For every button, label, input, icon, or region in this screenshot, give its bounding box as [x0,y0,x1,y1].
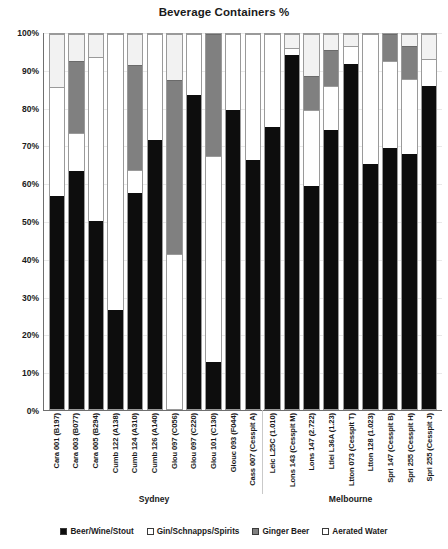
bar-segment [422,34,436,59]
chart-legend: Beer/Wine/StoutGin/Schnapps/SpiritsGinge… [0,527,448,536]
bar-column[interactable] [186,33,202,410]
x-tick-cell: Cass 007 (Cesspit A) [244,412,260,494]
bar-column[interactable] [303,33,319,410]
bar-stack [68,33,84,410]
bar-segment [285,48,299,55]
x-tick-cell: Glouc 093 (F044) [225,412,241,494]
x-tick-cell: Ltton 073 (Cesspit T) [342,412,358,494]
bar-column[interactable] [323,33,339,410]
bar-column[interactable] [205,33,221,410]
y-tick-label: 0% [27,406,39,416]
x-tick-label: Ltlei L36A (1.23) [327,413,336,469]
legend-item[interactable]: Beer/Wine/Stout [60,527,133,536]
bar-stack [343,33,359,410]
bar-column[interactable] [284,33,300,410]
x-tick-label: Cumb 124 (A310) [130,413,139,473]
bar-column[interactable] [401,33,417,410]
bar-column[interactable] [127,33,143,410]
bar-stack [401,33,417,410]
bar-segment [304,76,318,110]
bar-column[interactable] [245,33,261,410]
bar-segment [167,254,181,409]
legend-label: Beer/Wine/Stout [70,527,133,536]
bar-column[interactable] [147,33,163,410]
x-tick-label: Cara 005 (B294) [91,413,100,469]
x-tick-label: Glou 101 (C130) [209,413,218,469]
bar-series-layer [44,33,442,410]
x-tick-cell: Glou 101 (C130) [205,412,221,494]
x-tick-cell: Cumb 122 (A138) [107,412,123,494]
x-tick-cell: Leic L25C (1.010) [264,412,280,494]
bar-segment [69,34,83,61]
x-axis-tick-labels: Cara 001 (B197)Cara 003 (B077)Cara 005 (… [43,412,442,494]
bar-stack [323,33,339,410]
bar-column[interactable] [68,33,84,410]
bar-stack [245,33,261,410]
bar-segment [246,160,260,409]
plot-area [43,33,442,411]
bar-stack [382,33,398,410]
bar-column[interactable] [49,33,65,410]
bar-segment [206,362,220,409]
y-tick-label: 40% [22,255,39,265]
x-tick-cell: Lons 143 (Cesspit M) [283,412,299,494]
chart-title: Beverage Containers % [0,6,448,18]
bar-segment [108,34,122,310]
x-tick-cell: Cumb 124 (A310) [126,412,142,494]
bar-column[interactable] [264,33,280,410]
bar-segment [128,170,142,193]
x-tick-cell: Cara 003 (B077) [67,412,83,494]
x-tick-cell: Cara 001 (B197) [48,412,64,494]
x-axis-group-labels: SydneyMelbourne [43,494,442,510]
x-tick-label: Cara 001 (B197) [51,413,60,469]
x-tick-label: Leic L25C (1.010) [268,413,277,473]
bar-column[interactable] [343,33,359,410]
bar-segment [422,59,436,86]
swatch-beer-icon [60,528,67,535]
bar-stack [49,33,65,410]
bar-stack [264,33,280,410]
bar-segment [89,57,103,220]
bar-segment [324,130,338,409]
bar-column[interactable] [88,33,104,410]
bar-segment [363,34,377,164]
bar-column[interactable] [421,33,437,410]
legend-item[interactable]: Gin/Schnapps/Spirits [147,527,240,536]
x-tick-cell: Spri 147 (Cesspit B) [382,412,398,494]
bar-stack [303,33,319,410]
y-tick-label: 30% [22,293,39,303]
bar-column[interactable] [362,33,378,410]
x-tick-label: Spri 255 (Cesspit J) [425,413,434,481]
bar-column[interactable] [166,33,182,410]
bar-segment [148,140,162,409]
legend-label: Aerated Water [332,527,387,536]
bar-segment [69,133,83,171]
bar-segment [402,34,416,46]
legend-item[interactable]: Ginger Beer [252,527,309,536]
bar-stack [362,33,378,410]
x-tick-cell: Ltlei L36A (1.23) [323,412,339,494]
x-tick-label: Glouc 093 (F044) [228,413,237,472]
legend-item[interactable]: Aerated Water [322,527,387,536]
bar-column[interactable] [107,33,123,410]
bar-segment [344,34,358,46]
bar-column[interactable] [225,33,241,410]
bar-column[interactable] [382,33,398,410]
y-tick-label: 100% [17,28,39,38]
bar-stack [166,33,182,410]
x-tick-label: Lons 147 (2.722) [307,413,316,471]
swatch-ginger-icon [252,528,259,535]
bar-segment [265,34,279,127]
bar-segment [402,46,416,79]
bar-stack [107,33,123,410]
bar-segment [50,87,64,196]
group-separator [262,410,263,494]
bar-stack [205,33,221,410]
x-tick-label: Lons 143 (Cesspit M) [287,413,296,487]
y-tick-label: 20% [22,330,39,340]
bar-stack [421,33,437,410]
x-tick-label: Glou 097 (C220) [189,413,198,469]
bar-segment [226,110,240,409]
bar-segment [304,34,318,76]
y-tick-label: 60% [22,179,39,189]
